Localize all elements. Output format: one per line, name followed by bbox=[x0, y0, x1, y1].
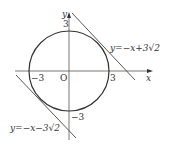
origin-label: O bbox=[60, 74, 67, 83]
x-axis-label: x bbox=[146, 74, 151, 83]
x-tick-3: 3 bbox=[110, 74, 116, 83]
tangent-label-upper: y=−x+3√2 bbox=[110, 44, 160, 53]
x-tick-neg3: −3 bbox=[31, 74, 44, 83]
y-axis-label: y bbox=[62, 10, 67, 19]
y-axis-arrow-icon bbox=[67, 12, 71, 18]
y-tick-3: 3 bbox=[63, 20, 69, 29]
y-tick-neg3: −3 bbox=[71, 113, 84, 122]
tangent-label-lower: y=−x−3√2 bbox=[10, 124, 60, 133]
